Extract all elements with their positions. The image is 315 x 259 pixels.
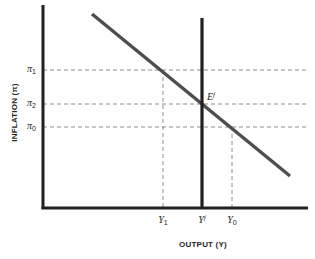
x-tick-label-yf: Yf bbox=[189, 214, 215, 225]
guide-lines-horizontal bbox=[43, 70, 308, 127]
x-axis-title-text: OUTPUT (Y) bbox=[179, 240, 227, 249]
equilibrium-point-superscript: f bbox=[213, 91, 215, 99]
y-tick-pi1-subscript: 1 bbox=[32, 68, 36, 75]
x-tick-label-y1: Y1 bbox=[150, 214, 176, 226]
y-tick-label-pi0: π0 bbox=[14, 120, 36, 132]
guide-lines-vertical bbox=[163, 70, 232, 209]
y-axis-title: INFLATION (π) bbox=[10, 71, 19, 155]
y-tick-label-pi1: π1 bbox=[14, 63, 36, 75]
y-tick-label-pi2: π2 bbox=[14, 97, 36, 109]
x-axis-title: OUTPUT (Y) bbox=[140, 240, 266, 249]
chart-figure: INFLATION (π) OUTPUT (Y) π1 π2 π0 Y1 Yf … bbox=[0, 0, 315, 259]
y-axis-title-text: INFLATION (π) bbox=[10, 83, 19, 141]
equilibrium-point-label: Ef bbox=[207, 91, 215, 102]
x-tick-y0-subscript: 0 bbox=[233, 219, 237, 226]
y-tick-pi0-subscript: 0 bbox=[32, 125, 36, 132]
x-tick-y1-subscript: 1 bbox=[164, 219, 168, 226]
aggregate-demand-curve bbox=[92, 14, 290, 176]
x-tick-label-y0: Y0 bbox=[219, 214, 245, 226]
x-tick-yf-superscript: f bbox=[204, 214, 206, 222]
y-tick-pi2-subscript: 2 bbox=[32, 102, 36, 109]
